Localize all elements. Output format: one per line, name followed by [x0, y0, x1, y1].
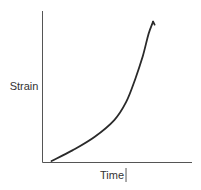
strain-time-chart: Strain Time — [0, 0, 201, 190]
y-axis-label: Strain — [10, 80, 39, 92]
series-layer — [52, 22, 155, 161]
series-end-hook — [153, 22, 155, 25]
series-line-strain-vs-time — [52, 22, 154, 161]
x-axis-label: Time — [100, 169, 124, 181]
